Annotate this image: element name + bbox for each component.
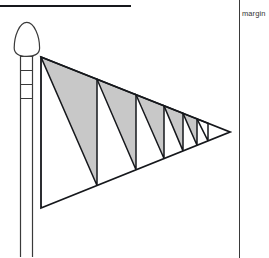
finial-outer-shell	[14, 22, 39, 56]
flagpole-group	[21, 56, 33, 257]
flag-figure-drawing	[0, 0, 269, 258]
pole-finial-icon	[14, 22, 39, 56]
margin-label: margin	[242, 9, 266, 18]
figure-page: margin	[0, 0, 269, 258]
margin-panel	[239, 0, 269, 258]
pennant-stripes-generated	[41, 57, 230, 208]
